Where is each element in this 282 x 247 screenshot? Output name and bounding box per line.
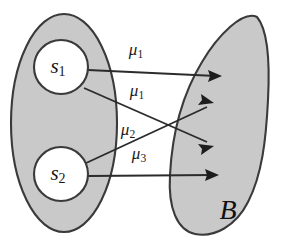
node-s2-label-subscript: 2 bbox=[59, 171, 66, 186]
target-region-label: B bbox=[219, 194, 236, 225]
edge-1-label-base: μ bbox=[128, 40, 138, 59]
mapping-diagram: s1 s2 μ1 μ1 μ2 μ3 B bbox=[0, 0, 282, 247]
edge-2-label: μ1 bbox=[129, 81, 145, 101]
diagram-canvas: s1 s2 μ1 μ1 μ2 μ3 B bbox=[0, 0, 282, 247]
node-s1-label-subscript: 1 bbox=[59, 64, 66, 79]
node-s1-label-base: s bbox=[50, 54, 58, 78]
edge-2-label-base: μ bbox=[129, 81, 139, 100]
edge-4-label: μ3 bbox=[131, 144, 147, 164]
edge-3-label: μ2 bbox=[120, 120, 136, 140]
edge-3-label-base: μ bbox=[120, 120, 130, 139]
edge-4-label-subscript: 3 bbox=[140, 152, 146, 164]
edge-3-label-subscript: 2 bbox=[129, 128, 135, 140]
edge-2-label-subscript: 1 bbox=[138, 89, 144, 101]
edge-1-label-subscript: 1 bbox=[137, 48, 143, 60]
node-s2-label-base: s bbox=[50, 161, 58, 185]
edge-1-label: μ1 bbox=[128, 40, 144, 60]
edge-4-line bbox=[88, 175, 212, 176]
edge-4-label-base: μ bbox=[131, 144, 141, 163]
